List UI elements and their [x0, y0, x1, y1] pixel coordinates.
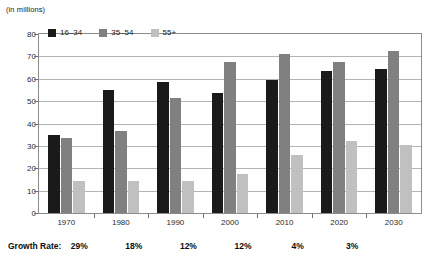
bar-group-1980: [94, 34, 149, 213]
x-tick-mark-5: [312, 214, 313, 218]
bar-group-2030: [366, 34, 421, 213]
bar-2030-16-34: [375, 69, 387, 213]
growth-rate-label: Growth Rate:: [8, 241, 61, 251]
legend-label-35-54: 35–54: [111, 28, 133, 37]
y-tick-mark-30: [34, 146, 38, 147]
growth-rate-value-1: 18%: [125, 241, 142, 251]
x-tick-label-1990: 1990: [167, 218, 185, 227]
y-tick-label-10: 10: [10, 186, 36, 195]
x-tick-label-1980: 1980: [112, 218, 130, 227]
y-tick-mark-20: [34, 168, 38, 169]
growth-rate-value-2: 12%: [180, 241, 197, 251]
bar-1970-55-: [73, 181, 85, 213]
bar-1990-16-34: [157, 82, 169, 213]
x-tick-label-2020: 2020: [330, 218, 348, 227]
legend-item-2: 55+: [151, 28, 177, 37]
y-tick-mark-10: [34, 191, 38, 192]
y-tick-label-0: 0: [10, 209, 36, 218]
bar-group-2010: [257, 34, 312, 213]
bar-group-1970: [39, 34, 94, 213]
bar-2030-55-: [400, 145, 412, 213]
x-tick-label-2030: 2030: [385, 218, 403, 227]
bar-chart: (in millions) 01020304050607080 16–34 35…: [0, 0, 429, 266]
bar-2000-16-34: [212, 93, 224, 213]
y-tick-label-60: 60: [10, 74, 36, 83]
y-tick-mark-0: [34, 213, 38, 214]
bar-2020-35-54: [333, 62, 345, 213]
y-tick-mark-70: [34, 56, 38, 57]
legend-item-0: 16–34: [48, 28, 82, 37]
growth-rate-value-5: 3%: [346, 241, 358, 251]
x-tick-label-2000: 2000: [221, 218, 239, 227]
y-tick-label-40: 40: [10, 119, 36, 128]
legend-swatch-35-54: [99, 29, 107, 37]
legend-item-1: 35–54: [99, 28, 133, 37]
bar-2020-16-34: [321, 71, 333, 213]
bar-2010-55-: [291, 155, 303, 213]
x-tick-mark-4: [257, 214, 258, 218]
chart-legend: 16–34 35–54 55+: [48, 28, 176, 37]
bar-group-2000: [203, 34, 258, 213]
y-tick-mark-50: [34, 101, 38, 102]
x-tick-mark-2: [148, 214, 149, 218]
units-note: (in millions): [6, 5, 45, 14]
bar-1990-35-54: [170, 98, 182, 213]
bar-1970-35-54: [61, 138, 73, 213]
bar-group-1990: [148, 34, 203, 213]
growth-rate-value-0: 29%: [71, 241, 88, 251]
y-tick-mark-80: [34, 34, 38, 35]
y-tick-mark-60: [34, 79, 38, 80]
legend-swatch-16-34: [48, 29, 56, 37]
bar-1970-16-34: [48, 135, 60, 213]
bar-1980-16-34: [103, 90, 115, 213]
growth-rate-value-4: 4%: [291, 241, 303, 251]
y-tick-label-50: 50: [10, 97, 36, 106]
x-tick-mark-1: [94, 214, 95, 218]
bar-2010-16-34: [266, 80, 278, 213]
x-tick-label-2010: 2010: [276, 218, 294, 227]
bar-1980-55-: [128, 181, 140, 213]
bar-1980-35-54: [115, 131, 127, 213]
bar-2000-55-: [237, 174, 249, 213]
bar-2020-55-: [346, 141, 358, 213]
x-tick-label-1970: 1970: [57, 218, 75, 227]
legend-swatch-55-plus: [151, 29, 159, 37]
bar-2030-35-54: [388, 51, 400, 213]
y-tick-label-30: 30: [10, 141, 36, 150]
bar-2000-35-54: [224, 62, 236, 213]
y-tick-label-80: 80: [10, 30, 36, 39]
bar-2010-35-54: [279, 54, 291, 213]
legend-label-16-34: 16–34: [60, 28, 82, 37]
growth-rate-value-3: 12%: [234, 241, 251, 251]
bar-group-2020: [312, 34, 367, 213]
bar-1990-55-: [182, 181, 194, 213]
x-tick-mark-6: [366, 214, 367, 218]
y-tick-label-20: 20: [10, 164, 36, 173]
y-tick-label-70: 70: [10, 52, 36, 61]
legend-label-55-plus: 55+: [163, 28, 177, 37]
x-tick-mark-3: [203, 214, 204, 218]
bars-layer: [39, 34, 421, 213]
y-tick-mark-40: [34, 124, 38, 125]
